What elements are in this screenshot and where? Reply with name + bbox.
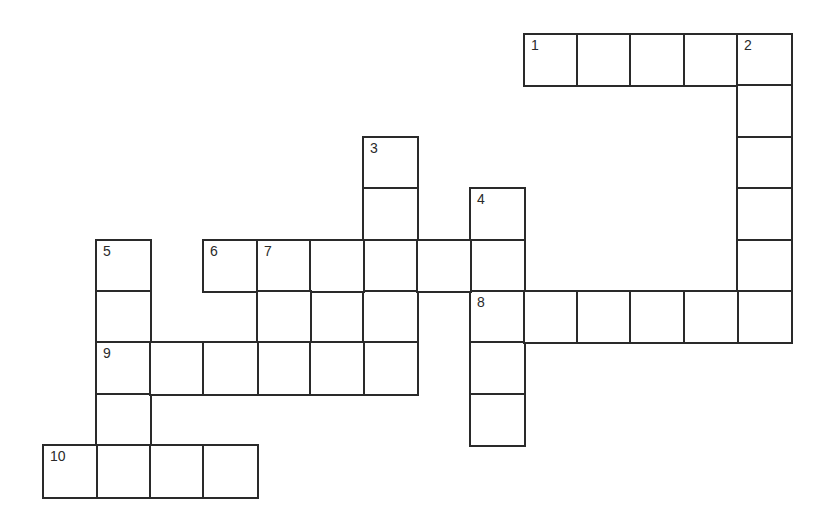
- crossword-cell[interactable]: 9: [95, 341, 152, 396]
- crossword-cell[interactable]: 7: [256, 239, 312, 293]
- clue-number: 2: [744, 38, 752, 52]
- crossword-cell[interactable]: 8: [469, 290, 526, 344]
- crossword-cell[interactable]: [95, 444, 152, 499]
- clue-number: 4: [477, 192, 485, 206]
- crossword-cell[interactable]: [469, 341, 526, 396]
- crossword-cell[interactable]: [736, 187, 793, 242]
- clue-number: 9: [103, 346, 111, 360]
- crossword-cell[interactable]: [309, 239, 365, 293]
- crossword-grid: 12348596710: [0, 0, 833, 515]
- crossword-cell[interactable]: [95, 290, 152, 344]
- clue-number: 1: [531, 38, 539, 52]
- crossword-cell[interactable]: [256, 341, 312, 396]
- crossword-cell[interactable]: [362, 341, 419, 396]
- crossword-cell[interactable]: [362, 187, 419, 242]
- crossword-cell[interactable]: 3: [362, 136, 419, 190]
- crossword-cell[interactable]: [736, 136, 793, 190]
- crossword-cell[interactable]: 10: [42, 444, 98, 499]
- crossword-cell[interactable]: [469, 239, 526, 293]
- crossword-cell[interactable]: [469, 393, 526, 447]
- clue-number: 3: [370, 141, 378, 155]
- crossword-cell[interactable]: [683, 33, 739, 87]
- crossword-cell[interactable]: 5: [95, 239, 152, 293]
- crossword-cell[interactable]: 4: [469, 187, 526, 242]
- crossword-cell[interactable]: [309, 341, 365, 396]
- crossword-cell[interactable]: 2: [736, 33, 793, 87]
- crossword-cell[interactable]: [362, 239, 419, 293]
- crossword-cell[interactable]: [256, 290, 312, 344]
- clue-number: 7: [264, 244, 272, 258]
- clue-number: 5: [103, 244, 111, 258]
- crossword-cell[interactable]: [736, 239, 793, 293]
- clue-number: 8: [477, 295, 485, 309]
- crossword-cell[interactable]: [95, 393, 152, 447]
- crossword-cell[interactable]: [416, 239, 472, 293]
- crossword-cell[interactable]: [576, 33, 632, 87]
- crossword-cell[interactable]: [736, 84, 793, 139]
- crossword-cell[interactable]: 6: [202, 239, 259, 293]
- crossword-cell[interactable]: [736, 290, 793, 344]
- clue-number: 10: [50, 449, 66, 463]
- crossword-cell[interactable]: [149, 444, 205, 499]
- crossword-cell[interactable]: [202, 444, 259, 499]
- crossword-cell[interactable]: [362, 290, 419, 344]
- crossword-cell[interactable]: [629, 290, 686, 344]
- clue-number: 6: [210, 244, 218, 258]
- crossword-cell[interactable]: [202, 341, 259, 396]
- crossword-cell[interactable]: 1: [523, 33, 579, 87]
- crossword-cell[interactable]: [576, 290, 632, 344]
- crossword-cell[interactable]: [523, 290, 579, 344]
- crossword-cell[interactable]: [683, 290, 739, 344]
- crossword-cell[interactable]: [149, 341, 205, 396]
- crossword-cell[interactable]: [629, 33, 686, 87]
